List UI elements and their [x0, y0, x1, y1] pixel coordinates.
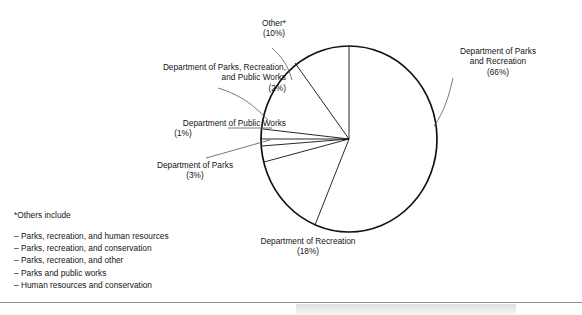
footnote-item: –Human resources and conservation	[14, 279, 254, 291]
footnote-heading: *Others include	[14, 210, 254, 221]
label-dept-public-works: Department of Public Works (1%)	[80, 118, 286, 139]
slice-divider-other-parksrec	[295, 63, 349, 139]
label-dept-public-works-pct: (1%)	[80, 128, 286, 138]
label-dept-recreation-name: Department of Recreation	[260, 236, 355, 246]
footnote-item: –Parks and public works	[14, 267, 254, 279]
footnote-bullet: –	[14, 242, 21, 254]
label-dept-parks-pct: (3%)	[104, 170, 286, 180]
label-dept-parks-rec-publicworks-line2: and Public Works	[78, 72, 286, 82]
leader-dept-parks	[206, 140, 270, 158]
label-dept-parks-name: Department of Parks	[157, 160, 233, 170]
label-dept-parks-rec-publicworks: Department of Parks, Recreation, and Pub…	[78, 62, 286, 93]
footnote-item: –Parks, recreation, and conservation	[14, 242, 254, 254]
footnote-bullet: –	[14, 267, 21, 279]
footnote-item-text: Parks, recreation, and conservation	[21, 243, 152, 253]
footnote-item: –Parks, recreation, and human resources	[14, 230, 254, 242]
label-dept-parks: Department of Parks (3%)	[104, 160, 286, 181]
label-dept-parks-recreation-line2: and Recreation	[428, 56, 568, 66]
scan-artifact	[296, 304, 516, 315]
label-other-name: Other*	[262, 18, 286, 28]
slice-divider-parksrec-recreation	[315, 139, 349, 225]
label-dept-parks-recreation-line1: Department of Parks	[460, 46, 536, 56]
footnote-item-text: Human resources and conservation	[21, 280, 152, 290]
label-dept-parks-recreation-pct: (66%)	[428, 67, 568, 77]
label-other: Other* (10%)	[238, 18, 310, 39]
footnote-block: *Others include –Parks, recreation, and …	[14, 210, 254, 291]
pie-slices	[261, 46, 437, 232]
footnote-item-text: Parks, recreation, and other	[21, 255, 123, 265]
footnote-bullet: –	[14, 254, 21, 266]
label-dept-public-works-name: Department of Public Works	[183, 118, 286, 128]
footnote-bullet: –	[14, 230, 21, 242]
label-other-pct: (10%)	[238, 28, 310, 38]
label-dept-parks-rec-publicworks-pct: (2%)	[78, 83, 286, 93]
footnote-item-text: Parks and public works	[21, 268, 106, 278]
footnote-list: –Parks, recreation, and human resources …	[14, 230, 254, 291]
leader-dept-parks-recreation	[434, 78, 453, 126]
label-dept-parks-recreation: Department of Parks and Recreation (66%)	[428, 46, 568, 77]
footnote-item-text: Parks, recreation, and human resources	[21, 231, 169, 241]
page-rule	[0, 302, 582, 303]
footnote-bullet: –	[14, 279, 21, 291]
footnote-item: –Parks, recreation, and other	[14, 254, 254, 266]
label-dept-parks-rec-publicworks-line1: Department of Parks, Recreation,	[163, 62, 286, 72]
